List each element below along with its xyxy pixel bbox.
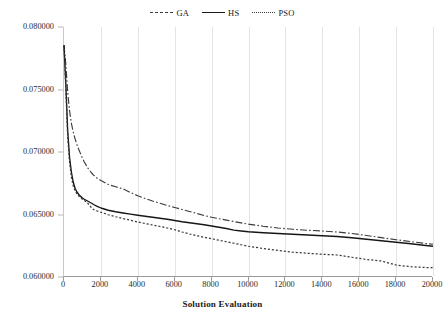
plot-area	[63, 27, 432, 277]
x-axis-tick-label: 10000	[237, 281, 258, 289]
y-axis-tick-label: 0.075000	[23, 85, 54, 93]
x-axis-tick-mark	[137, 277, 138, 281]
gridline-vertical	[433, 27, 434, 276]
y-axis-tick-mark	[58, 277, 63, 278]
y-axis-tick-label: 0.065000	[23, 210, 54, 218]
y-axis-tick-mark	[58, 89, 63, 90]
x-axis-tick-mark	[211, 277, 212, 281]
x-axis-tick-mark	[432, 277, 433, 281]
x-axis-tick-label: 12000	[274, 281, 295, 289]
y-axis-tick-mark	[58, 27, 63, 28]
chart-figure: GA HS PSO 0.0600000.0650000.0700000.0750…	[0, 0, 445, 322]
x-axis-tick-mark	[100, 277, 101, 281]
x-axis-tick-label: 4000	[129, 281, 146, 289]
y-axis-tick-label: 0.060000	[23, 273, 54, 281]
x-axis-tick-label: 14000	[311, 281, 332, 289]
series-lines	[64, 27, 433, 277]
x-axis-title: Solution Evaluation	[0, 299, 445, 309]
legend-label-ga: GA	[176, 9, 189, 18]
legend-item-hs: HS	[202, 9, 239, 18]
x-axis-tick-mark	[248, 277, 249, 281]
y-axis-tick-label: 0.070000	[23, 148, 54, 156]
legend-label-pso: PSO	[278, 9, 294, 18]
x-axis-tick-label: 2000	[92, 281, 109, 289]
x-axis-tick-label: 20000	[422, 281, 443, 289]
x-axis-tick-label: 6000	[165, 281, 182, 289]
y-axis-labels: 0.0600000.0650000.0700000.0750000.080000	[0, 27, 58, 277]
x-axis-tick-mark	[174, 277, 175, 281]
legend-swatch-dotted-icon	[252, 9, 275, 17]
x-axis-tick-mark	[284, 277, 285, 281]
y-axis-tick-mark	[58, 214, 63, 215]
series-line-hs	[64, 45, 433, 246]
x-axis-tick-mark	[358, 277, 359, 281]
x-axis-tick-mark	[63, 277, 64, 281]
x-axis-tick-label: 8000	[202, 281, 219, 289]
legend-swatch-solid-icon	[202, 9, 225, 17]
legend-item-ga: GA	[150, 9, 189, 18]
y-axis-tick-label: 0.080000	[23, 23, 54, 31]
x-axis-tick-mark	[395, 277, 396, 281]
legend-item-pso: PSO	[252, 9, 294, 18]
x-axis-tick-label: 18000	[385, 281, 406, 289]
series-line-ga	[64, 45, 433, 244]
y-axis-tick-mark	[58, 152, 63, 153]
x-axis-labels: 0200040006000800010000120001400016000180…	[0, 281, 445, 295]
legend-label-hs: HS	[228, 9, 239, 18]
x-axis-tick-label: 0	[61, 281, 65, 289]
series-line-pso	[64, 45, 433, 268]
chart-legend: GA HS PSO	[0, 5, 445, 21]
legend-swatch-dash-dot-icon	[150, 9, 173, 17]
x-axis-tick-mark	[321, 277, 322, 281]
x-axis-tick-label: 16000	[348, 281, 369, 289]
